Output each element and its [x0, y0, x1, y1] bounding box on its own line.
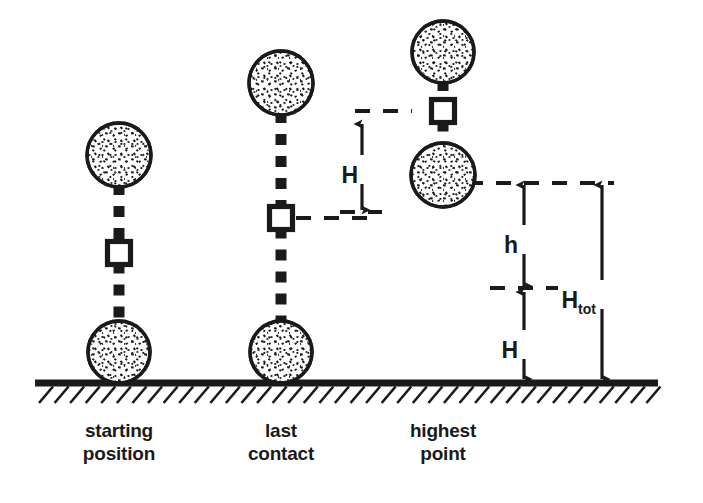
ground-hatch-mark: [366, 387, 380, 404]
ground-hatch-mark: [210, 387, 224, 404]
connector-upper-starting-position-seg: [114, 228, 125, 239]
ground-hatch-mark: [460, 387, 474, 404]
ground-hatch-mark: [241, 387, 255, 404]
ground-hatch-mark: [600, 387, 614, 404]
ground-hatch-mark: [444, 387, 458, 404]
ground-hatch-mark: [475, 387, 489, 404]
dimension-label-main-h-flight: h: [504, 232, 518, 258]
ball-lower-starting-position-texture: [90, 323, 148, 381]
connector-lower-last-contact-seg: [276, 294, 287, 305]
connector-lower-last-contact-seg: [276, 272, 287, 283]
connector-upper-last-contact-seg: [276, 134, 287, 145]
dimension-label-main-H-lower: H: [501, 337, 518, 363]
ground-group: [35, 383, 660, 403]
caption-line1-last-contact: last: [265, 420, 298, 441]
position-column-highest-point: [411, 21, 475, 207]
ground-hatch-mark: [257, 387, 271, 404]
connector-lower-last-contact-seg: [276, 250, 287, 261]
ground-hatch-mark: [646, 387, 660, 404]
ground-hatch-mark: [335, 387, 349, 404]
ground-hatch-mark: [39, 387, 53, 404]
ground-hatch-marks: [39, 387, 660, 404]
ground-hatch-mark: [195, 387, 209, 404]
ground-hatch-mark: [569, 387, 583, 404]
dimension-arrows-group: [362, 124, 602, 379]
ground-hatch-mark: [615, 387, 629, 404]
ground-hatch-mark: [86, 387, 100, 404]
ground-hatch-mark: [397, 387, 411, 404]
caption-line2-highest-point: point: [420, 443, 466, 464]
jump-height-diagram: startingpositionlastcontacthighestpointH…: [0, 0, 703, 503]
ball-upper-last-contact-texture: [251, 53, 311, 113]
caption-line1-starting-position: starting: [85, 420, 153, 441]
ball-upper-highest-point-texture: [414, 23, 472, 81]
ground-hatch-mark: [351, 387, 365, 404]
connector-lower-starting-position-seg: [114, 307, 125, 318]
body-positions-group: [87, 21, 475, 383]
ground-hatch-mark: [428, 387, 442, 404]
ground-hatch-mark: [70, 387, 84, 404]
labels-group: startingpositionlastcontacthighestpointH…: [83, 162, 596, 464]
ground-hatch-mark: [101, 387, 115, 404]
ground-hatch-mark: [117, 387, 131, 404]
dimension-label-H-upper: H: [341, 162, 358, 188]
dimension-label-subscript-H-tot: tot: [578, 301, 596, 317]
ball-upper-starting-position-texture: [89, 125, 149, 185]
dimension-label-main-H-upper: H: [341, 162, 358, 188]
ground-hatch-mark: [413, 387, 427, 404]
dimension-label-H-tot: Htot: [561, 287, 596, 317]
ground-hatch-mark: [304, 387, 318, 404]
center-of-mass-marker-starting-position: [108, 242, 131, 265]
caption-line2-last-contact: contact: [248, 443, 315, 464]
ground-hatch-mark: [132, 387, 146, 404]
dimension-label-main-H-tot: H: [561, 287, 578, 313]
ground-hatch-mark: [382, 387, 396, 404]
connector-upper-starting-position-seg: [114, 206, 125, 217]
center-of-mass-marker-highest-point: [432, 100, 455, 123]
ground-hatch-mark: [288, 387, 302, 404]
caption-line2-starting-position: position: [83, 443, 155, 464]
position-column-starting-position: [87, 123, 151, 383]
ground-hatch-mark: [506, 387, 520, 404]
diagram-canvas: startingpositionlastcontacthighestpointH…: [0, 0, 703, 503]
ground-hatch-mark: [537, 387, 551, 404]
connector-upper-last-contact-seg: [276, 156, 287, 167]
ground-hatch-mark: [584, 387, 598, 404]
connector-lower-starting-position-seg: [114, 285, 125, 296]
ground-hatch-mark: [319, 387, 333, 404]
ground-hatch-mark: [164, 387, 178, 404]
ground-hatch-mark: [226, 387, 240, 404]
ground-hatch-mark: [491, 387, 505, 404]
ground-hatch-mark: [179, 387, 193, 404]
ground-hatch-mark: [55, 387, 69, 404]
ground-hatch-mark: [631, 387, 645, 404]
ball-lower-highest-point-texture: [413, 145, 473, 205]
ground-hatch-mark: [148, 387, 162, 404]
connector-upper-last-contact-seg: [276, 178, 287, 189]
ground-hatch-mark: [522, 387, 536, 404]
ground-hatch-mark: [273, 387, 287, 404]
ball-lower-last-contact-texture: [252, 323, 310, 381]
ground-hatch-mark: [553, 387, 567, 404]
dimension-label-H-lower: H: [501, 337, 518, 363]
center-of-mass-marker-last-contact: [270, 207, 293, 230]
dimension-label-h-flight: h: [504, 232, 518, 258]
caption-line1-highest-point: highest: [410, 420, 477, 441]
